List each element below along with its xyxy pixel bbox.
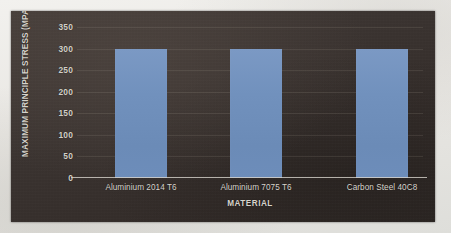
x-axis-tick-labels: Aluminium 2014 T6 Aluminium 7075 T6 Carb… xyxy=(77,183,423,197)
y-tick-label: 200 xyxy=(39,87,73,97)
bar-carbon-steel-40c8 xyxy=(356,49,408,178)
y-tick-label: 150 xyxy=(39,108,73,118)
y-tick-label: 0 xyxy=(39,173,73,183)
y-tick-label: 100 xyxy=(39,130,73,140)
plot-area xyxy=(77,27,423,178)
bar-chart-panel: MAXIMUM PRINCIPLE STRESS (MPA) 350 300 2… xyxy=(11,11,435,222)
x-axis-title: MATERIAL xyxy=(77,199,423,208)
bar-aluminium-7075-t6 xyxy=(230,49,282,178)
x-tick-label: Aluminium 2014 T6 xyxy=(75,183,207,192)
y-tick-label: 350 xyxy=(39,22,73,32)
scanned-page: MAXIMUM PRINCIPLE STRESS (MPA) 350 300 2… xyxy=(0,0,451,233)
x-tick-label: Aluminium 7075 T6 xyxy=(190,183,322,192)
y-tick-label: 50 xyxy=(39,151,73,161)
y-axis-tick-labels: 350 300 250 200 150 100 50 0 xyxy=(29,27,73,178)
bar-aluminium-2014-t6 xyxy=(115,49,167,178)
gridline xyxy=(77,27,423,28)
y-tick-label: 300 xyxy=(39,44,73,54)
y-tick-label: 250 xyxy=(39,65,73,75)
x-axis-line xyxy=(71,177,427,178)
x-tick-label: Carbon Steel 40C8 xyxy=(316,183,435,192)
